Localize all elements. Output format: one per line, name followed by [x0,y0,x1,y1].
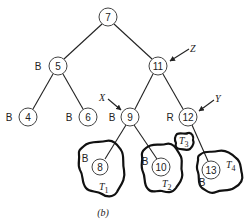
color-label-8: B [82,153,89,164]
svg-text:11: 11 [153,61,164,72]
node-12: 12 R [166,108,197,126]
pointer-y-arrow-icon [199,100,214,111]
svg-text:12: 12 [182,112,194,123]
node-8: 8 B [82,153,108,176]
color-label-10: B [142,156,149,167]
edge-7-5 [64,24,102,59]
svg-text:X: X [98,92,106,103]
node-11: 11 [149,57,167,75]
node-6: 6 B [66,108,97,126]
color-label-13: B [199,177,206,188]
node-4: 4 B [6,108,37,126]
node-13: 13 B [199,161,220,188]
color-label-6: B [66,112,73,123]
svg-text:Z: Z [190,43,196,54]
edge-11-9 [135,74,153,109]
svg-text:Y: Y [215,93,222,104]
edge-5-4 [33,74,53,109]
node-7: 7 [99,8,117,26]
svg-text:6: 6 [85,112,91,123]
edge-5-6 [63,74,83,109]
figure-caption: (b) [97,207,109,219]
pointer-z: Z [170,43,196,61]
svg-text:5: 5 [55,61,61,72]
pointer-z-arrow-icon [170,49,189,61]
subtree-label-t2: T2 [162,178,172,192]
red-black-tree-diagram: 7 5 B 11 4 B 6 B 9 B 12 R 8 B 10 B 13 [0,0,251,224]
color-label-4: B [6,112,13,123]
subtree-label-t3: T3 [179,135,189,149]
color-label-9: B [109,112,116,123]
svg-text:8: 8 [97,162,103,173]
color-label-5: B [35,61,42,72]
svg-text:4: 4 [25,112,31,123]
edge-9-10 [134,125,157,159]
pointer-x: X [98,92,121,110]
pointer-y: Y [199,93,222,111]
edge-11-12 [163,74,183,109]
edge-7-11 [114,24,152,59]
svg-text:9: 9 [127,112,133,123]
node-9: 9 B [109,108,139,126]
subtree-label-t4: T4 [226,159,236,173]
svg-text:10: 10 [155,162,167,173]
svg-text:7: 7 [105,12,111,23]
color-label-12: R [166,112,173,123]
node-10: 10 B [142,156,170,177]
pointer-x-arrow-icon [108,99,121,110]
node-5: 5 B [35,57,67,75]
svg-text:13: 13 [205,165,217,176]
